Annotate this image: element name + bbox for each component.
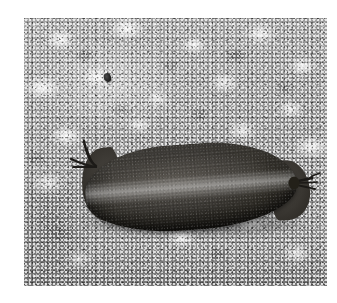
sausage-left-casing-tie [64,136,98,170]
photograph [24,18,327,286]
sausage [24,18,327,286]
page-root [0,0,337,303]
sausage-right-casing-tie [288,170,322,198]
